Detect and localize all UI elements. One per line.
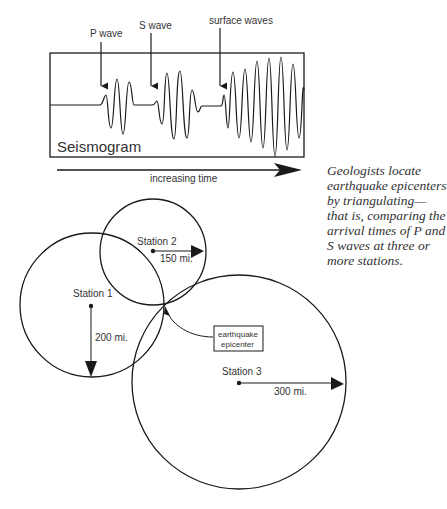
seismogram-label: Seismogram <box>57 138 141 155</box>
epicenter-pointer-arrow <box>167 311 213 337</box>
time-axis-label: increasing time <box>150 173 218 184</box>
station-2-radius-arrowhead-icon <box>191 245 204 258</box>
s-wave-label: S wave <box>139 20 172 31</box>
p-wave-label: P wave <box>90 28 123 39</box>
station-2-label: Station 2 <box>137 236 177 247</box>
station-3-label: Station 3 <box>222 366 262 377</box>
epicenter-pointer-arrowhead-icon <box>164 306 170 316</box>
station-1-label: Station 1 <box>73 288 113 299</box>
station-1-radius-arrowhead-icon <box>85 361 97 377</box>
station-2-distance: 150 mi. <box>160 253 193 264</box>
triangulation: Station 1 200 mi. Station 2 150 mi. Stat… <box>20 199 346 489</box>
caption: Geologists locate earthquake epicenters … <box>327 163 447 268</box>
seismogram: Seismogram P wave S wave surface waves i… <box>50 15 304 184</box>
station-1-distance: 200 mi. <box>95 332 128 343</box>
epicenter-label-line1: earthquake <box>218 330 259 339</box>
station-3-distance: 300 mi. <box>274 386 307 397</box>
epicenter-label-line2: epicenter <box>221 340 254 349</box>
station-3-radius-arrowhead-icon <box>331 377 344 390</box>
surface-waves-label: surface waves <box>209 15 273 26</box>
